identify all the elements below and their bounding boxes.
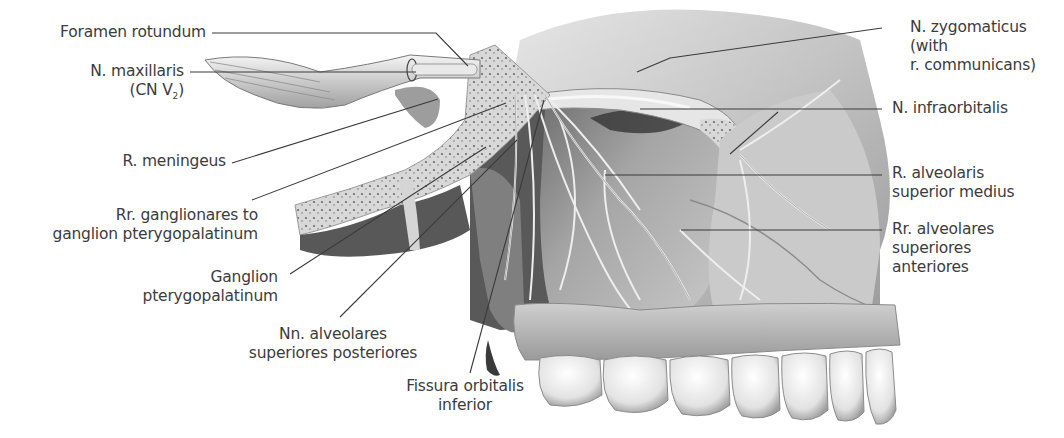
label-nn-alveolares-posteriores: Nn. alveolares superiores posteriores [228, 325, 438, 363]
label-r-meningeus: R. meningeus [30, 152, 226, 171]
label-fissura-orbitalis-inferior: Fissura orbitalis inferior [385, 377, 545, 415]
label-n-zygomaticus: N. zygomaticus (with r. communicans) [910, 18, 1036, 75]
label-foramen-rotundum: Foramen rotundum [30, 23, 206, 42]
label-ganglion-pterygopalatinum: Ganglion pterygopalatinum [60, 268, 278, 306]
label-n-infraorbitalis: N. infraorbitalis [892, 99, 1008, 118]
leader-r-meningeus [232, 99, 438, 163]
teeth [539, 349, 896, 424]
label-rr-ganglionares: Rr. ganglionares to ganglion pterygopala… [10, 206, 258, 244]
cn-v2: (CN V2) [30, 81, 184, 106]
label-rr-alveolares-superiores-anteriores: Rr. alveolares superiores anteriores [892, 220, 994, 277]
label-r-alveolaris-superior-medius: R. alveolaris superior medius [892, 164, 1014, 202]
label-n-maxillaris: N. maxillaris (CN V2) [30, 62, 184, 106]
